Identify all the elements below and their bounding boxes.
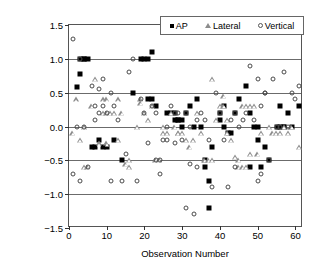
data-point-vertical	[168, 104, 173, 109]
data-point-vertical	[244, 110, 249, 115]
data-point-vertical	[104, 110, 109, 115]
legend-label: Lateral	[213, 21, 241, 31]
data-point-ap	[180, 117, 185, 122]
data-point-lateral	[115, 138, 121, 143]
data-point-vertical	[214, 90, 219, 95]
data-point-vertical	[70, 36, 75, 41]
x-tick-label: 10	[101, 230, 112, 241]
data-point-lateral	[225, 131, 231, 136]
data-point-vertical	[221, 138, 226, 143]
data-point-ap	[187, 104, 192, 109]
data-point-vertical	[184, 205, 189, 210]
data-point-lateral	[251, 104, 257, 109]
data-point-vertical	[282, 70, 287, 75]
data-point-vertical	[82, 124, 87, 129]
x-axis-title: Observation Number	[68, 248, 302, 259]
data-point-vertical	[251, 117, 256, 122]
data-point-vertical	[146, 141, 151, 146]
data-point-vertical	[184, 110, 189, 115]
data-point-vertical	[259, 104, 264, 109]
data-point-vertical	[248, 63, 253, 68]
data-point-vertical	[93, 117, 98, 122]
data-point-vertical	[293, 97, 298, 102]
data-point-vertical	[195, 165, 200, 170]
data-point-lateral	[191, 138, 197, 143]
data-point-lateral	[96, 141, 102, 146]
data-point-lateral	[145, 117, 151, 122]
plot-area: −1.5−1.0−0.50.00.51.01.5 0102030405060	[68, 24, 302, 227]
data-point-lateral	[172, 124, 178, 129]
data-point-lateral	[77, 138, 83, 143]
data-point-lateral	[247, 151, 253, 156]
data-point-vertical	[199, 110, 204, 115]
data-point-vertical	[180, 138, 185, 143]
data-point-ap	[210, 144, 215, 149]
data-point-vertical	[157, 158, 162, 163]
data-point-vertical	[142, 110, 147, 115]
data-point-vertical	[108, 90, 113, 95]
data-point-lateral	[209, 77, 215, 82]
data-point-vertical	[85, 165, 90, 170]
data-point-lateral	[296, 144, 302, 149]
data-point-vertical	[210, 185, 215, 190]
data-point-vertical	[78, 178, 83, 183]
data-point-vertical	[278, 124, 283, 129]
legend-entry-ap: AP	[170, 21, 188, 31]
data-point-vertical	[172, 141, 177, 146]
data-point-lateral	[209, 158, 215, 163]
data-point-vertical	[112, 104, 117, 109]
data-point-ap	[85, 56, 90, 61]
legend-label: AP	[176, 21, 188, 31]
data-point-lateral	[277, 131, 283, 136]
chart-legend: APLateralVertical	[160, 16, 304, 35]
y-tick	[65, 194, 69, 195]
data-point-vertical	[97, 87, 102, 92]
data-point-vertical	[150, 104, 155, 109]
data-point-ap	[255, 124, 260, 129]
data-point-vertical	[270, 77, 275, 82]
data-point-lateral	[285, 131, 291, 136]
data-point-vertical	[153, 110, 158, 115]
data-point-vertical	[89, 83, 94, 88]
x-tick-label: 50	[252, 230, 263, 241]
scatter-chart-figure: Difference between original and recalcul…	[0, 0, 315, 271]
data-point-ap	[206, 205, 211, 210]
data-point-vertical	[157, 171, 162, 176]
data-point-vertical	[119, 178, 124, 183]
legend-marker-ap-icon	[170, 24, 174, 28]
y-tick-label: 0.0	[50, 121, 63, 132]
x-tick-label: 0	[66, 230, 71, 241]
data-point-vertical	[259, 171, 264, 176]
legend-marker-lateral-icon	[205, 23, 211, 28]
data-point-ap	[263, 144, 268, 149]
data-point-vertical	[100, 77, 105, 82]
data-point-lateral	[213, 117, 219, 122]
data-point-vertical	[176, 110, 181, 115]
data-point-vertical	[131, 56, 136, 61]
data-point-vertical	[233, 165, 238, 170]
data-point-ap	[150, 97, 155, 102]
data-point-vertical	[285, 124, 290, 129]
data-point-vertical	[191, 212, 196, 217]
data-point-ap	[244, 83, 249, 88]
y-tick-label: 0.5	[50, 87, 63, 98]
data-point-vertical	[240, 117, 245, 122]
x-tick-label: 20	[139, 230, 150, 241]
data-point-vertical	[74, 124, 79, 129]
data-point-lateral	[104, 97, 110, 102]
y-tick-label: −1.5	[44, 223, 63, 234]
data-point-vertical	[267, 158, 272, 163]
legend-entry-lateral: Lateral	[205, 21, 241, 31]
data-point-vertical	[123, 151, 128, 156]
x-tick-label: 40	[215, 230, 226, 241]
legend-label: Vertical	[265, 21, 295, 31]
data-point-lateral	[228, 138, 234, 143]
data-point-lateral	[70, 131, 76, 136]
data-point-ap	[278, 104, 283, 109]
data-point-ap	[259, 165, 264, 170]
data-point-vertical	[165, 138, 170, 143]
data-point-lateral	[74, 97, 80, 102]
data-point-vertical	[263, 90, 268, 95]
data-point-vertical	[225, 185, 230, 190]
data-point-ap	[131, 90, 136, 95]
